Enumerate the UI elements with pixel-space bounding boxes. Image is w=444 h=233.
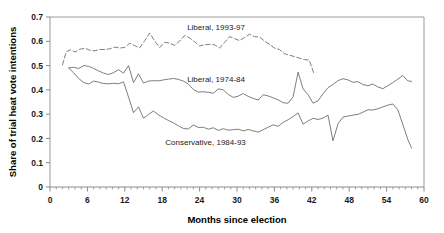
y-tick-label: 0.5 (31, 61, 43, 71)
chart-container: 06121824303642485460 00.10.20.30.40.50.6… (0, 0, 444, 233)
x-tick-label: 0 (48, 195, 53, 205)
x-tick-label: 30 (232, 195, 242, 205)
trial-heat-line-chart: 06121824303642485460 00.10.20.30.40.50.6… (0, 0, 444, 233)
x-tick-label: 36 (270, 195, 280, 205)
y-tick-label: 0.7 (31, 12, 43, 22)
x-tick-label: 24 (195, 195, 205, 205)
y-tick-label: 0.6 (31, 36, 43, 46)
y-tick-label: 0.4 (31, 85, 43, 95)
x-tick-label: 48 (344, 195, 354, 205)
y-tick-label: 0.2 (31, 134, 43, 144)
series-label-1: Liberal, 1974-84 (187, 75, 245, 84)
y-axis-title: Share of trial heat vote intentions (7, 27, 18, 177)
x-tick-label: 6 (85, 195, 90, 205)
y-tick-label: 0.1 (31, 158, 43, 168)
x-tick-label: 12 (120, 195, 130, 205)
chart-background (0, 0, 444, 233)
series-label-2: Conservative, 1984-93 (165, 138, 246, 147)
y-tick-label: 0 (38, 182, 43, 192)
x-tick-label: 42 (307, 195, 317, 205)
x-tick-label: 60 (419, 195, 429, 205)
x-tick-label: 18 (157, 195, 167, 205)
x-tick-label: 54 (382, 195, 392, 205)
x-axis-title: Months since election (187, 214, 286, 225)
y-tick-label: 0.3 (31, 109, 43, 119)
series-label-0: Liberal, 1993-97 (187, 23, 245, 32)
